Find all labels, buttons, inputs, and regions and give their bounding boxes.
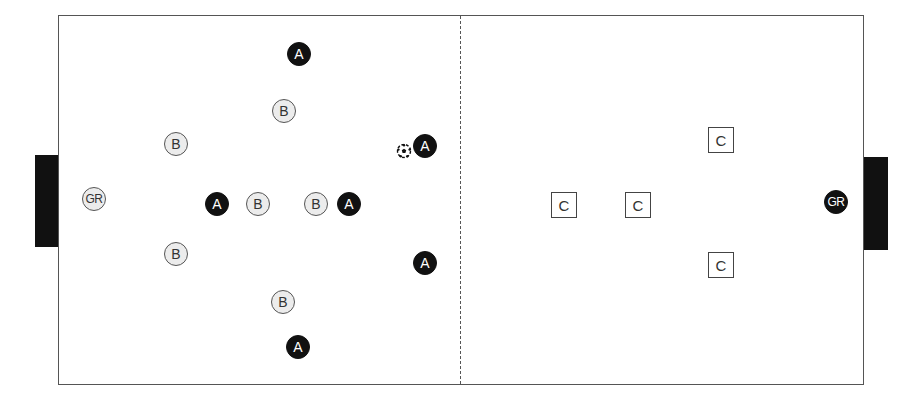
player-label: GR	[828, 196, 845, 208]
player-marker: A	[287, 42, 311, 66]
player-label: A	[420, 139, 429, 153]
player-label: B	[279, 104, 288, 118]
player-label: B	[171, 137, 180, 151]
cone-label: C	[633, 197, 644, 214]
soccer-field	[58, 15, 864, 385]
player-marker: A	[205, 192, 229, 216]
player-label: A	[293, 340, 302, 354]
halfway-line	[460, 16, 461, 384]
goalkeeper-marker: GR	[82, 187, 106, 211]
cone-marker: C	[625, 192, 651, 218]
player-marker: B	[304, 192, 328, 216]
player-marker: B	[164, 132, 188, 156]
player-marker: B	[164, 242, 188, 266]
cone-label: C	[716, 132, 727, 149]
player-label: GR	[86, 193, 103, 205]
player-label: B	[253, 197, 262, 211]
cone-marker: C	[551, 192, 577, 218]
soccer-ball-icon	[397, 144, 412, 159]
right-goal	[864, 157, 888, 250]
cone-marker: C	[708, 127, 734, 153]
player-label: B	[311, 197, 320, 211]
player-marker: A	[286, 335, 310, 359]
player-label: A	[294, 47, 303, 61]
player-label: A	[420, 256, 429, 270]
left-goal	[35, 155, 58, 247]
goalkeeper-marker: GR	[824, 190, 848, 214]
cone-label: C	[559, 197, 570, 214]
player-marker: B	[246, 192, 270, 216]
player-marker: B	[272, 99, 296, 123]
player-label: B	[278, 295, 287, 309]
player-marker: B	[271, 290, 295, 314]
cone-label: C	[716, 257, 727, 274]
player-marker: A	[413, 134, 437, 158]
cone-marker: C	[708, 252, 734, 278]
player-label: B	[171, 247, 180, 261]
player-marker: A	[413, 251, 437, 275]
player-marker: A	[337, 192, 361, 216]
player-label: A	[344, 197, 353, 211]
player-label: A	[212, 197, 221, 211]
